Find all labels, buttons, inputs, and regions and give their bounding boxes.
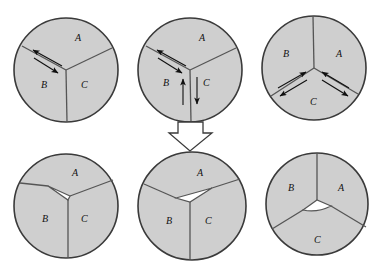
- block-arrow-down: [169, 122, 212, 151]
- grain-label-c: C: [205, 215, 212, 226]
- panel-top-center: A B C: [138, 18, 242, 122]
- grain-label-a: A: [74, 32, 82, 43]
- grain-label-b: B: [166, 215, 172, 226]
- grain-label-a: A: [198, 32, 206, 43]
- grain-label-a: A: [335, 48, 343, 59]
- grain-label-a: A: [71, 167, 79, 178]
- grain-label-c: C: [81, 213, 88, 224]
- figure-canvas: A B C A B C B A C: [0, 0, 379, 264]
- grain-circle: [14, 154, 118, 258]
- grain-label-b: B: [283, 48, 289, 59]
- grain-label-a: A: [337, 182, 345, 193]
- grain-label-b: B: [42, 213, 48, 224]
- panel-bottom-left: A B C: [14, 154, 118, 258]
- grain-label-c: C: [81, 79, 88, 90]
- grain-boundary-figure: A B C A B C B A C: [0, 0, 379, 264]
- grain-label-c: C: [314, 234, 321, 245]
- grain-label-a: A: [196, 167, 204, 178]
- grain-label-b: B: [41, 79, 47, 90]
- grain-label-b: B: [288, 182, 294, 193]
- panel-bottom-right: B A C: [266, 153, 368, 255]
- block-arrow-shape: [169, 122, 212, 151]
- panel-bottom-center: A B C: [138, 152, 246, 260]
- grain-label-c: C: [310, 96, 317, 107]
- panel-top-left: A B C: [14, 18, 118, 122]
- grain-circle: [138, 152, 246, 260]
- panel-top-right: B A C: [262, 16, 366, 120]
- grain-label-b: B: [163, 77, 169, 88]
- grain-label-c: C: [203, 77, 210, 88]
